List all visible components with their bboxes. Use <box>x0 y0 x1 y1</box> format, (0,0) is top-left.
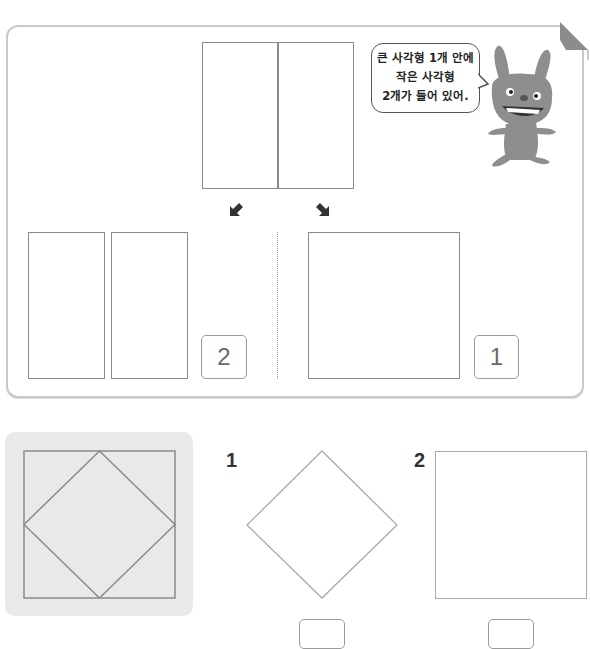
answer-box-right: 1 <box>474 335 519 379</box>
speech-bubble: 큰 사각형 1개 안에 작은 사각형 2개가 들어 있어. <box>371 43 480 113</box>
folded-corner-icon <box>558 20 590 60</box>
rectangle-divider-line <box>277 42 279 189</box>
small-rectangle-1 <box>28 232 105 379</box>
small-rectangle-2 <box>111 232 188 379</box>
answer-box-left: 2 <box>201 335 247 379</box>
bunny-character-icon <box>482 42 560 170</box>
large-square <box>308 232 460 379</box>
problem-number-2: 2 <box>414 449 425 472</box>
bubble-line-1: 큰 사각형 1개 안에 <box>372 49 479 68</box>
reference-square-with-diamond <box>23 450 176 599</box>
dotted-divider <box>277 232 278 379</box>
down-left-arrow-icon <box>228 202 244 218</box>
bubble-line-2: 작은 사각형 <box>372 68 479 87</box>
answer-box-problem-1[interactable] <box>299 619 345 649</box>
problem-1-diamond <box>245 450 399 600</box>
answer-box-problem-2[interactable] <box>488 619 534 649</box>
down-right-arrow-icon <box>315 202 331 218</box>
problem-2-square <box>435 451 587 599</box>
problem-number-1: 1 <box>226 449 237 472</box>
bubble-line-3: 2개가 들어 있어. <box>372 87 479 106</box>
